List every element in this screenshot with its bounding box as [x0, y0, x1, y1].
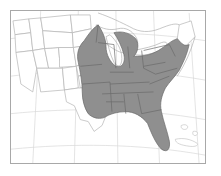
map-figure [0, 0, 221, 176]
islands-layer [175, 125, 197, 147]
cuba-outline [175, 139, 197, 147]
bahamas-outline [181, 125, 188, 130]
state-wyoming [43, 31, 74, 49]
map-canvas [11, 11, 205, 163]
state-oregon [15, 33, 33, 53]
state-new-mexico [62, 66, 78, 90]
map-frame [10, 10, 206, 164]
shaded-range-layer [78, 25, 190, 151]
state-montana [41, 15, 73, 33]
state-arizona [37, 68, 65, 92]
graticule-parallel [11, 145, 205, 155]
state-california [16, 50, 37, 91]
small-island-outline [193, 131, 198, 135]
range-area-core [78, 25, 190, 151]
state-washington [13, 19, 31, 35]
canada-border [98, 13, 179, 32]
